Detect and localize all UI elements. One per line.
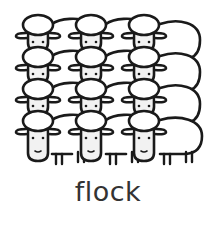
flock-illustration — [0, 0, 216, 176]
sheep — [16, 15, 60, 51]
sheep — [16, 79, 60, 115]
sheep — [69, 79, 113, 115]
sheep — [16, 47, 60, 83]
sheep — [69, 15, 113, 51]
caption-word: flock — [0, 176, 216, 207]
sheep — [122, 15, 166, 51]
sheep — [69, 47, 113, 83]
sheep — [122, 79, 166, 115]
sheep — [122, 47, 166, 83]
